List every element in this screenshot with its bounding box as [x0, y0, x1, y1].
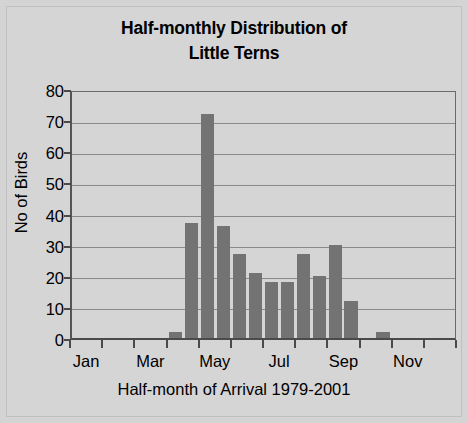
x-tick-mark: [69, 340, 71, 348]
chart-title: Half-monthly Distribution of Little Tern…: [0, 16, 468, 66]
bar: [249, 273, 262, 338]
bar: [217, 226, 230, 338]
y-tick-mark: [64, 121, 71, 123]
x-tick-label: May: [180, 352, 250, 371]
y-tick-label: 30: [24, 239, 64, 256]
x-tick-label: Jan: [51, 352, 121, 371]
bar-series: [72, 92, 455, 338]
y-tick-mark: [64, 90, 71, 92]
y-tick-label: 20: [24, 270, 64, 287]
bar-slot: [359, 92, 375, 338]
y-tick-label: 70: [24, 114, 64, 131]
bar-slot: [184, 92, 200, 338]
bar-slot: [423, 92, 439, 338]
x-tick-mark: [262, 340, 264, 348]
x-tick-mark: [391, 340, 393, 348]
bar: [169, 332, 182, 338]
y-tick-mark: [64, 277, 71, 279]
bar-slot: [247, 92, 263, 338]
x-tick-label: Nov: [373, 352, 443, 371]
x-tick-label: Mar: [115, 352, 185, 371]
chart-title-line-2: Little Terns: [0, 41, 468, 66]
x-axis-title: Half-month of Arrival 1979-2001: [0, 380, 468, 399]
x-tick-mark: [359, 340, 361, 348]
x-tick-mark: [166, 340, 168, 348]
y-tick-label: 40: [24, 208, 64, 225]
y-tick-label: 0: [24, 332, 64, 349]
bar-slot: [168, 92, 184, 338]
x-tick-mark: [423, 340, 425, 348]
bar-slot: [104, 92, 120, 338]
x-tick-mark: [230, 340, 232, 348]
y-tick-mark: [64, 246, 71, 248]
x-tick-mark: [455, 340, 457, 348]
bar: [313, 276, 326, 338]
bar: [265, 282, 278, 338]
chart-title-line-1: Half-monthly Distribution of: [0, 16, 468, 41]
x-tick-mark: [326, 340, 328, 348]
bar-slot: [295, 92, 311, 338]
bar-slot: [88, 92, 104, 338]
chart-container: Half-monthly Distribution of Little Tern…: [0, 0, 468, 423]
bar: [185, 223, 198, 338]
x-tick-mark: [101, 340, 103, 348]
bar-slot: [327, 92, 343, 338]
bar-slot: [391, 92, 407, 338]
x-tick-mark: [198, 340, 200, 348]
bar: [344, 301, 357, 338]
bar-slot: [311, 92, 327, 338]
y-tick-label: 10: [24, 301, 64, 318]
y-tick-mark: [64, 215, 71, 217]
x-tick-label: Sep: [308, 352, 378, 371]
bar: [297, 254, 310, 338]
bar: [281, 282, 294, 338]
y-tick-mark: [64, 308, 71, 310]
bar-slot: [279, 92, 295, 338]
bar: [233, 254, 246, 338]
y-tick-label: 50: [24, 176, 64, 193]
bar-slot: [200, 92, 216, 338]
y-tick-label: 80: [24, 83, 64, 100]
bar: [376, 332, 389, 338]
bar-slot: [407, 92, 423, 338]
x-tick-mark: [294, 340, 296, 348]
bar-slot: [216, 92, 232, 338]
bar-slot: [232, 92, 248, 338]
bar-slot: [120, 92, 136, 338]
bar-slot: [72, 92, 88, 338]
bar-slot: [343, 92, 359, 338]
x-tick-label: Jul: [244, 352, 314, 371]
y-tick-mark: [64, 152, 71, 154]
plot-area: [70, 91, 456, 340]
bar-slot: [439, 92, 455, 338]
x-tick-mark: [133, 340, 135, 348]
bar-slot: [136, 92, 152, 338]
y-tick-label: 60: [24, 145, 64, 162]
bar: [201, 114, 214, 338]
bar: [329, 245, 342, 338]
y-tick-mark: [64, 183, 71, 185]
bar-slot: [152, 92, 168, 338]
bar-slot: [263, 92, 279, 338]
bar-slot: [375, 92, 391, 338]
y-tick-mark: [64, 339, 71, 341]
